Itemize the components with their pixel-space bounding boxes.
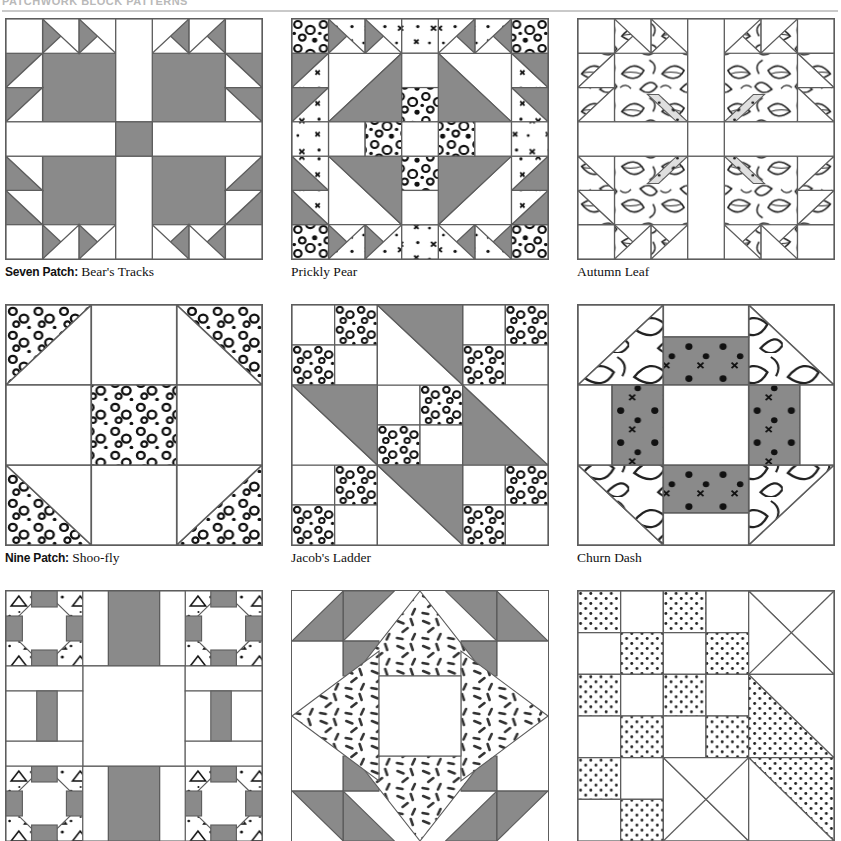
block-diagram-bottom-left [5, 590, 263, 841]
block-diagram-bears-tracks [5, 18, 263, 260]
header-rule [2, 10, 838, 12]
caption-category: Seven Patch: [5, 265, 78, 279]
block-cell-shoo-fly: Nine Patch: Shoo-fly [5, 304, 263, 566]
block-diagram-bottom-center [291, 590, 549, 841]
block-cell-prickly-pear: Prickly Pear [291, 18, 549, 280]
block-diagram-prickly-pear [291, 18, 549, 260]
caption-name: Bear's Tracks [81, 264, 154, 279]
quilt-block-reference-page: PATCHWORK BLOCK PATTERNS [0, 0, 841, 841]
caption-name: Prickly Pear [291, 264, 357, 279]
block-cell-autumn-leaf: Autumn Leaf [577, 18, 835, 280]
block-cell-bears-tracks: Seven Patch: Bear's Tracks [5, 18, 263, 280]
block-grid: Seven Patch: Bear's Tracks [0, 14, 841, 841]
caption-bears-tracks: Seven Patch: Bear's Tracks [5, 264, 263, 280]
block-diagram-jacobs-ladder [291, 304, 549, 546]
caption-prickly-pear: Prickly Pear [291, 264, 549, 280]
caption-autumn-leaf: Autumn Leaf [577, 264, 835, 280]
block-diagram-bottom-right [577, 590, 835, 841]
block-cell-bottom-right [577, 590, 837, 841]
block-cell-jacobs-ladder: Jacob's Ladder [291, 304, 549, 566]
caption-shoo-fly: Nine Patch: Shoo-fly [5, 550, 263, 566]
block-cell-churn-dash: Churn Dash [577, 304, 835, 566]
caption-churn-dash: Churn Dash [577, 550, 835, 566]
caption-name: Jacob's Ladder [291, 550, 371, 565]
block-diagram-churn-dash [577, 304, 835, 546]
caption-name: Shoo-fly [72, 550, 119, 565]
block-diagram-shoo-fly [5, 304, 263, 546]
caption-jacobs-ladder: Jacob's Ladder [291, 550, 549, 566]
header-title: PATCHWORK BLOCK PATTERNS [2, 0, 188, 7]
page-header: PATCHWORK BLOCK PATTERNS [0, 0, 841, 14]
caption-category: Nine Patch: [5, 551, 69, 565]
block-diagram-autumn-leaf [577, 18, 835, 260]
block-cell-bottom-left [5, 590, 263, 841]
block-cell-bottom-center [291, 590, 549, 841]
caption-name: Autumn Leaf [577, 264, 649, 279]
caption-name: Churn Dash [577, 550, 642, 565]
